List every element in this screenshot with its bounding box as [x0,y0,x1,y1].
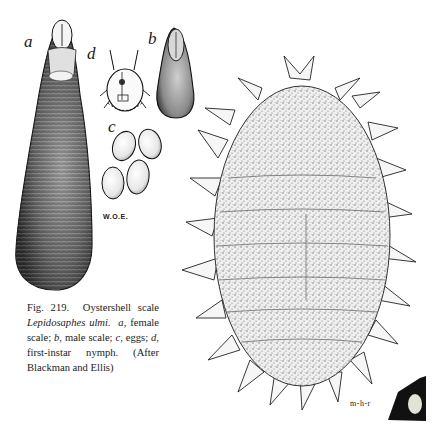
eggs-drawing [102,127,165,199]
figure-219: a d b c W.O.E. m-h-r Fig. 219. Oystershe… [0,0,437,436]
caption-text-b: , male scale; [59,332,115,343]
panel-label-c: c [108,117,116,137]
caption-fig-number: Fig. 219. [27,302,69,313]
large-scale-body-drawing [182,56,416,410]
male-scale-drawing [157,28,194,118]
nymph-drawing [100,50,150,111]
artist-signature-left: W.O.E. [103,213,128,220]
caption-text-c: , eggs; [120,332,151,343]
artist-signature-right: m-h-r [350,399,371,408]
panel-label-a: a [24,32,33,52]
female-scale-drawing [16,20,92,290]
caption-title: Oystershell scale [83,302,159,313]
figure-caption: Fig. 219. Oystershell scale Lepidosaphes… [27,300,159,375]
panel-label-d: d [87,44,96,64]
panel-label-b: b [148,29,157,49]
inset-actual-size-drawing [388,376,426,421]
caption-species: Lepidosaphes ulmi. [27,317,111,328]
